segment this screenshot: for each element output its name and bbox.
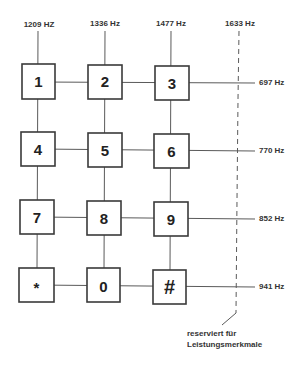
reserved-note-line1: reserviert für <box>187 329 236 338</box>
row-wire-697 <box>38 82 255 83</box>
key-hash: # <box>153 270 186 304</box>
row-label-852: 852 Hz <box>259 214 284 223</box>
key-star-label: * <box>34 279 40 296</box>
key-4-label: 4 <box>34 141 43 158</box>
key-3-label: 3 <box>168 75 176 92</box>
key-6: 6 <box>154 134 189 168</box>
column-wire-1633-dashed <box>236 31 239 313</box>
reserved-note-line2: Leistungsmerkmale <box>187 340 263 349</box>
key-9-label: 9 <box>167 211 175 228</box>
key-1: 1 <box>22 64 55 99</box>
row-label-697: 697 Hz <box>259 78 284 87</box>
column-label-1633: 1633 Hz <box>225 19 255 28</box>
column-frequency-labels: 1209 HZ 1336 Hz 1477 Hz 1633 Hz <box>24 19 255 29</box>
key-hash-label: # <box>164 276 175 298</box>
key-0: 0 <box>87 268 120 302</box>
key-8-label: 8 <box>100 210 108 227</box>
key-star: * <box>19 268 54 302</box>
column-wires <box>37 31 239 325</box>
row-frequency-labels: 697 Hz 770 Hz 852 Hz 941 Hz <box>259 78 284 291</box>
reserved-note: reserviert für Leistungsmerkmale <box>187 329 263 349</box>
row-wire-852 <box>37 217 255 219</box>
key-5-label: 5 <box>101 142 109 159</box>
key-2-label: 2 <box>101 73 109 90</box>
column-label-1209: 1209 HZ <box>24 20 55 29</box>
key-5: 5 <box>88 133 122 167</box>
key-2: 2 <box>88 65 122 99</box>
key-7: 7 <box>20 200 54 234</box>
key-6-label: 6 <box>167 143 175 160</box>
column-label-1336: 1336 Hz <box>90 19 120 28</box>
key-8: 8 <box>87 201 121 235</box>
row-label-941: 941 Hz <box>259 282 284 291</box>
dtmf-keypad-diagram: 1209 HZ 1336 Hz 1477 Hz 1633 Hz 697 Hz 7… <box>0 0 303 367</box>
key-3: 3 <box>155 66 189 100</box>
key-9: 9 <box>154 202 188 236</box>
key-7-label: 7 <box>33 209 41 226</box>
key-1-label: 1 <box>34 73 42 90</box>
row-wires <box>36 82 255 287</box>
row-label-770: 770 Hz <box>259 146 284 155</box>
row-wire-941 <box>36 285 255 287</box>
reserved-pointer-line <box>222 313 236 325</box>
column-label-1477: 1477 Hz <box>156 19 186 28</box>
key-0-label: 0 <box>99 278 107 295</box>
row-wire-770 <box>38 149 255 151</box>
key-4: 4 <box>21 132 55 166</box>
